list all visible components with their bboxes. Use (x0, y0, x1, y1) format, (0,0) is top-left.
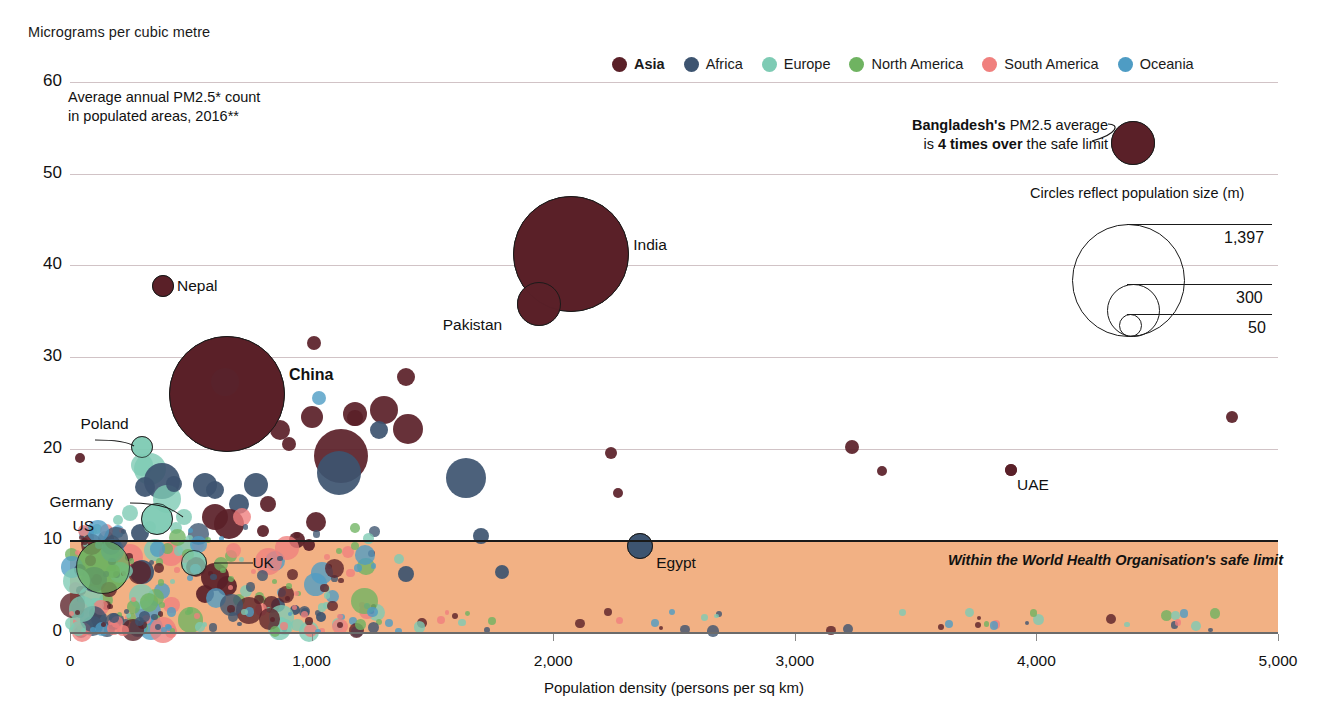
data-bubble[interactable] (272, 579, 277, 584)
data-bubble[interactable] (195, 622, 204, 631)
data-bubble-bangladesh[interactable] (1111, 121, 1155, 165)
data-bubble[interactable] (139, 611, 150, 622)
data-bubble[interactable] (294, 532, 299, 537)
data-bubble[interactable] (338, 578, 343, 583)
data-bubble[interactable] (1180, 609, 1189, 618)
data-bubble[interactable] (113, 515, 123, 525)
data-bubble[interactable] (150, 541, 165, 556)
data-bubble[interactable] (109, 613, 119, 623)
data-bubble[interactable] (244, 473, 268, 497)
data-bubble[interactable] (159, 602, 165, 608)
data-bubble[interactable] (239, 557, 244, 562)
data-bubble[interactable] (307, 336, 321, 350)
data-bubble[interactable] (228, 612, 238, 622)
data-bubble[interactable] (165, 624, 170, 629)
data-bubble[interactable] (394, 554, 404, 564)
data-bubble[interactable] (292, 605, 297, 610)
data-bubble[interactable] (154, 563, 164, 573)
data-bubble[interactable] (1226, 411, 1238, 423)
data-bubble-china[interactable] (169, 336, 285, 452)
data-bubble[interactable] (167, 607, 177, 617)
data-bubble[interactable] (282, 437, 296, 451)
data-bubble[interactable] (301, 406, 323, 428)
data-bubble[interactable] (107, 604, 112, 609)
data-bubble[interactable] (414, 621, 425, 632)
data-bubble-uae[interactable] (1005, 464, 1017, 476)
data-bubble[interactable] (397, 368, 415, 386)
data-bubble[interactable] (458, 619, 465, 626)
data-bubble[interactable] (370, 421, 388, 439)
data-bubble[interactable] (194, 613, 200, 619)
data-bubble[interactable] (170, 579, 175, 584)
data-bubble[interactable] (313, 530, 321, 538)
data-bubble[interactable] (350, 523, 360, 533)
data-bubble[interactable] (317, 451, 361, 495)
data-bubble[interactable] (707, 625, 719, 637)
data-bubble[interactable] (354, 564, 362, 572)
data-bubble[interactable] (280, 622, 288, 630)
data-bubble[interactable] (605, 447, 617, 459)
data-bubble[interactable] (1030, 609, 1038, 617)
data-bubble[interactable] (135, 477, 155, 497)
data-bubble[interactable] (651, 619, 659, 627)
data-bubble[interactable] (575, 619, 584, 628)
data-bubble[interactable] (1210, 608, 1221, 619)
data-bubble[interactable] (337, 614, 343, 620)
data-bubble[interactable] (826, 626, 835, 635)
data-bubble[interactable] (214, 557, 228, 571)
data-bubble[interactable] (899, 609, 906, 616)
data-bubble[interactable] (158, 579, 164, 585)
data-bubble[interactable] (277, 556, 282, 561)
data-bubble-egypt[interactable] (627, 533, 653, 559)
data-bubble[interactable] (174, 567, 179, 572)
data-bubble[interactable] (616, 617, 623, 624)
data-bubble[interactable] (176, 509, 192, 525)
data-bubble[interactable] (347, 410, 363, 426)
data-bubble[interactable] (294, 591, 299, 596)
data-bubble[interactable] (243, 524, 249, 530)
data-bubble[interactable] (877, 466, 887, 476)
data-bubble[interactable] (324, 592, 330, 598)
data-bubble[interactable] (371, 563, 376, 568)
data-bubble[interactable] (260, 496, 276, 512)
data-bubble[interactable] (701, 614, 708, 621)
data-bubble[interactable] (938, 624, 944, 630)
data-bubble[interactable] (446, 458, 486, 498)
data-bubble[interactable] (613, 488, 623, 498)
data-bubble[interactable] (226, 543, 241, 558)
data-bubble[interactable] (488, 617, 496, 625)
data-bubble[interactable] (169, 529, 186, 546)
data-bubble[interactable] (312, 391, 326, 405)
data-bubble[interactable] (385, 619, 393, 627)
data-bubble[interactable] (336, 548, 342, 554)
data-bubble[interactable] (604, 608, 612, 616)
data-bubble[interactable] (1175, 619, 1181, 625)
data-bubble[interactable] (1191, 621, 1201, 631)
data-bubble[interactable] (445, 610, 449, 614)
data-bubble[interactable] (206, 481, 224, 499)
data-bubble[interactable] (465, 611, 470, 616)
data-bubble[interactable] (355, 619, 366, 630)
data-bubble[interactable] (188, 528, 193, 533)
data-bubble[interactable] (71, 621, 86, 636)
data-bubble[interactable] (75, 453, 85, 463)
data-bubble[interactable] (151, 614, 157, 620)
data-bubble[interactable] (209, 623, 217, 631)
data-bubble[interactable] (241, 609, 248, 616)
data-bubble-nepal[interactable] (152, 275, 174, 297)
data-bubble-us[interactable] (76, 540, 130, 594)
data-bubble[interactable] (287, 569, 298, 580)
data-bubble[interactable] (845, 440, 859, 454)
data-bubble[interactable] (370, 396, 398, 424)
data-bubble-germany[interactable] (141, 503, 173, 535)
data-bubble[interactable] (367, 607, 378, 618)
data-bubble[interactable] (69, 596, 95, 622)
data-bubble[interactable] (233, 508, 251, 526)
data-bubble-pakistan[interactable] (517, 282, 561, 326)
data-bubble[interactable] (286, 583, 292, 589)
data-bubble[interactable] (210, 574, 216, 580)
data-bubble[interactable] (122, 505, 138, 521)
data-bubble[interactable] (166, 476, 182, 492)
data-bubble[interactable] (257, 525, 269, 537)
data-bubble[interactable] (398, 566, 414, 582)
